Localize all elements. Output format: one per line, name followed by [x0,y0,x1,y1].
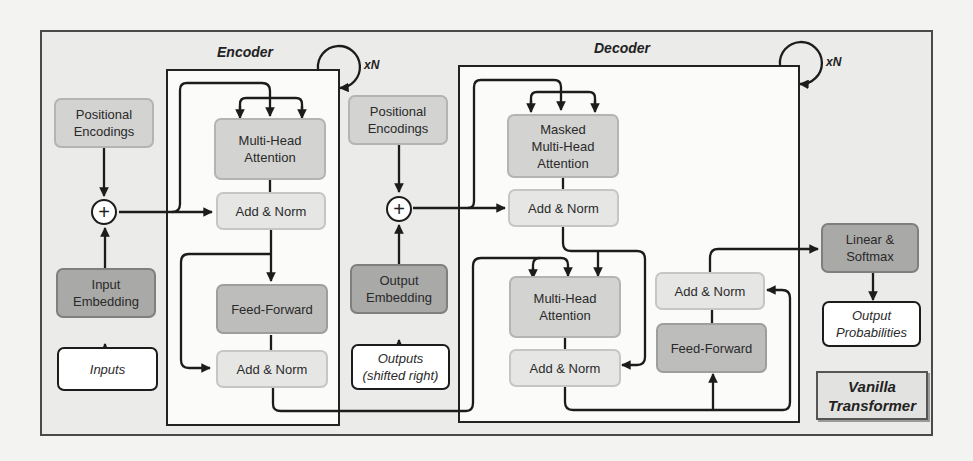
output-probabilities-box: OutputProbabilities [822,301,921,347]
decoder-positional-encodings: PositionalEncodings [348,95,448,145]
decoder-feed-forward: Feed-Forward [656,323,767,373]
decoder-title: Decoder [594,40,650,56]
decoder-add-norm-3: Add & Norm [655,272,765,310]
decoder-add-norm-1: Add & Norm [508,189,619,227]
encoder-add-norm-2: Add & Norm [216,350,328,388]
vanilla-transformer-label: VanillaTransformer [816,371,928,420]
decoder-add-icon: + [386,196,412,222]
output-embedding: OutputEmbedding [350,264,448,314]
encoder-feed-forward: Feed-Forward [216,284,328,334]
decoder-add-norm-2: Add & Norm [509,349,621,387]
encoder-add-icon: + [91,199,117,225]
input-embedding: InputEmbedding [56,268,156,318]
outputs-shifted-right-box: Outputs(shifted right) [351,344,450,390]
inputs-box: Inputs [57,347,158,391]
encoder-add-norm-1: Add & Norm [216,192,326,230]
encoder-multi-head-attention: Multi-HeadAttention [214,118,326,180]
decoder-masked-multi-head-attention: MaskedMulti-HeadAttention [507,114,619,178]
decoder-multi-head-attention: Multi-HeadAttention [509,276,621,338]
decoder-repeat-label: xN [826,55,841,69]
encoder-repeat-label: xN [364,58,379,72]
encoder-title: Encoder [217,44,273,60]
linear-softmax: Linear &Softmax [821,223,919,273]
encoder-positional-encodings: PositionalEncodings [54,98,154,148]
